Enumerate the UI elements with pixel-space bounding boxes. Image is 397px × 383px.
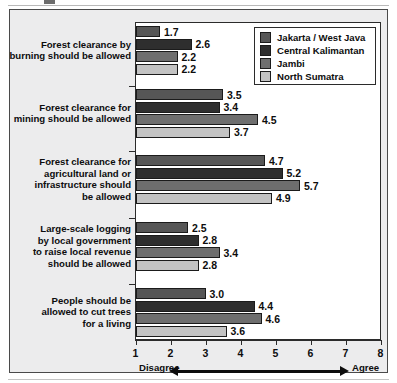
category-label-line: mining should be allowed [5, 113, 131, 125]
x-tick [241, 340, 242, 345]
bar-1-0 [136, 89, 224, 100]
category-label-1: Forest clearance formining should be all… [5, 102, 131, 125]
bar-4-2 [136, 313, 262, 324]
bar-value-label: 4.6 [266, 314, 281, 325]
category-label-3: Large-scale loggingby local governmentto… [5, 223, 131, 269]
bar-2-2 [136, 180, 301, 191]
bar-value-label: 4.9 [276, 193, 291, 204]
bar-2-3 [136, 193, 273, 204]
x-tick [276, 340, 277, 345]
category-label-line: Forest clearance for [5, 156, 131, 168]
x-tick-label: 1 [126, 347, 146, 359]
x-tick-label: 4 [231, 347, 251, 359]
bar-1-3 [136, 127, 231, 138]
legend-swatch-icon [260, 58, 271, 69]
bar-value-label: 4.4 [259, 301, 274, 312]
bar-4-3 [136, 326, 227, 337]
bar-value-label: 3.4 [224, 248, 239, 259]
category-label-line: agricultural land or [5, 168, 131, 180]
bar-3-1 [136, 235, 199, 246]
arrow-shaft [176, 370, 342, 373]
legend-item-2[interactable]: Jambi [260, 57, 305, 69]
bar-value-label: 2.5 [192, 223, 207, 234]
x-tick [381, 340, 382, 345]
x-tick [346, 340, 347, 345]
category-label-4: People should beallowed to cut treesfor … [5, 295, 131, 330]
bar-value-label: 5.7 [304, 181, 319, 192]
x-tick [171, 340, 172, 345]
category-label-line: Forest clearance for [5, 102, 131, 114]
x-tick [206, 340, 207, 345]
bar-3-0 [136, 222, 189, 233]
legend-swatch-icon [260, 71, 271, 82]
bar-value-label: 1.7 [164, 27, 179, 38]
x-tick-label: 2 [161, 347, 181, 359]
category-label-line: allowed to cut trees [5, 306, 131, 318]
x-tick-label: 6 [301, 347, 321, 359]
bar-value-label: 3.7 [234, 127, 249, 138]
legend-item-1[interactable]: Central Kalimantan [260, 44, 364, 56]
bar-3-2 [136, 247, 220, 258]
figure-root: 1.72.62.22.2Forest clearance byburning s… [0, 0, 397, 383]
category-label-line: for a living [5, 318, 131, 330]
legend-item-0[interactable]: Jakarta / West Java [260, 31, 365, 43]
category-label-line: Forest clearance by [5, 39, 131, 51]
arrow-head-right-icon [340, 366, 349, 376]
legend-swatch-icon [260, 32, 271, 43]
bar-2-1 [136, 168, 283, 179]
x-tick-label: 3 [196, 347, 216, 359]
top-divider-rule [8, 5, 389, 6]
bar-1-2 [136, 114, 259, 125]
bar-0-2 [136, 51, 178, 62]
legend: Jakarta / West JavaCentral KalimantanJam… [254, 27, 376, 85]
x-axis-line [135, 340, 381, 341]
bar-1-1 [136, 102, 220, 113]
x-tick [311, 340, 312, 345]
bar-value-label: 3.0 [210, 289, 225, 300]
category-label-line: People should be [5, 295, 131, 307]
bar-value-label: 5.2 [287, 168, 302, 179]
category-label-0: Forest clearance byburning should be all… [5, 39, 131, 62]
legend-item-3[interactable]: North Sumatra [260, 71, 344, 83]
bar-value-label: 2.2 [182, 64, 197, 75]
legend-swatch-icon [260, 45, 271, 56]
category-separator-tick [129, 151, 136, 152]
category-separator-tick [129, 218, 136, 219]
bar-4-1 [136, 301, 255, 312]
legend-label: Jambi [277, 58, 305, 69]
category-label-2: Forest clearance foragricultural land or… [5, 156, 131, 202]
category-label-line: infrastructure should [5, 179, 131, 191]
bar-0-1 [136, 39, 192, 50]
bar-value-label: 2.8 [203, 235, 218, 246]
bottom-divider-rule [8, 379, 389, 380]
scale-direction-arrow [169, 366, 349, 377]
category-separator-tick [129, 284, 136, 285]
bar-value-label: 4.5 [262, 115, 277, 126]
axis-anchor-agree: Agree [352, 362, 379, 373]
category-label-line: should be allowed [5, 258, 131, 270]
bar-2-0 [136, 155, 266, 166]
x-tick-label: 5 [266, 347, 286, 359]
bar-value-label: 3.4 [224, 102, 239, 113]
x-tick-label: 8 [371, 347, 391, 359]
cropped-caption-artifact [44, 0, 55, 4]
legend-label: Central Kalimantan [277, 45, 364, 56]
bar-value-label: 3.5 [227, 90, 242, 101]
bar-3-3 [136, 260, 199, 271]
bar-0-3 [136, 64, 178, 75]
category-separator-tick [129, 86, 136, 87]
legend-label: North Sumatra [277, 71, 344, 82]
bar-value-label: 4.7 [269, 156, 284, 167]
x-tick-label: 7 [336, 347, 356, 359]
bar-value-label: 2.6 [196, 39, 211, 50]
bar-value-label: 3.6 [231, 326, 246, 337]
bar-value-label: 2.2 [182, 52, 197, 63]
bar-value-label: 2.8 [203, 260, 218, 271]
category-label-line: be allowed [5, 191, 131, 203]
legend-label: Jakarta / West Java [277, 32, 365, 43]
category-label-line: to raise local revenue [5, 246, 131, 258]
bar-4-0 [136, 288, 206, 299]
category-label-line: by local government [5, 235, 131, 247]
x-tick [136, 340, 137, 345]
bar-0-0 [136, 26, 161, 37]
